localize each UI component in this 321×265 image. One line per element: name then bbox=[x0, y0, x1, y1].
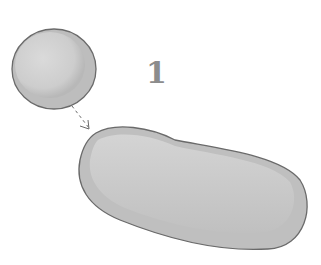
elongated-cell bbox=[79, 127, 307, 250]
diagram-canvas: 1 bbox=[0, 0, 321, 265]
round-cell bbox=[12, 29, 96, 109]
step-number-label: 1 bbox=[146, 58, 167, 88]
diagram-illustration bbox=[0, 0, 321, 265]
transition-arrow bbox=[72, 106, 89, 129]
